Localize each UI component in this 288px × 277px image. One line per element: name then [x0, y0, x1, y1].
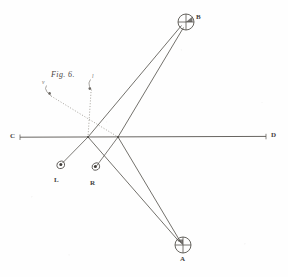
- baseline-group: [20, 134, 266, 140]
- label-point-a: A: [180, 256, 185, 263]
- dotted-construction-rays: [51, 92, 118, 137]
- eye-symbol-right: [92, 163, 100, 170]
- label-eye-left: L: [54, 177, 59, 184]
- figure-root: B A C D L R Fig. 6. v l: [0, 0, 288, 277]
- ray-x1-l: [63, 137, 89, 163]
- crossing-point-1: [87, 136, 89, 138]
- label-point-c: C: [10, 133, 15, 140]
- ray-x2-a: [118, 137, 182, 244]
- marker-a: [175, 237, 191, 253]
- ray-x1-a: [88, 137, 180, 242]
- label-virtual-right: l: [92, 74, 94, 80]
- eye-left-pupil: [59, 163, 62, 166]
- ray-x2-r: [97, 137, 119, 166]
- hook-symbol-right: [89, 80, 92, 91]
- hook-symbol-left: [45, 86, 51, 96]
- dotted-ray-v1-x2: [51, 96, 118, 137]
- hook-left-dot: [48, 92, 51, 95]
- eye-symbol-left: [57, 161, 65, 169]
- figure-canvas: [0, 0, 288, 277]
- eye-right-pupil: [94, 165, 97, 168]
- label-point-d: D: [271, 132, 276, 139]
- label-point-b: B: [196, 14, 201, 21]
- label-eye-right: R: [90, 180, 95, 187]
- label-virtual-left: v: [42, 80, 44, 86]
- ray-x2-b: [118, 28, 184, 138]
- dotted-ray-v2-x1: [88, 92, 91, 137]
- ray-x1-b: [88, 26, 182, 138]
- marker-b: [178, 14, 194, 30]
- rays-to-b: [88, 26, 184, 138]
- hook-right-dot: [89, 87, 92, 90]
- crossing-point-2: [117, 136, 119, 138]
- rays-to-a: [88, 137, 182, 244]
- baseline-cd: [20, 136, 266, 137]
- figure-caption: Fig. 6.: [51, 71, 75, 79]
- marker-b-quadrant-fill: [186, 17, 193, 23]
